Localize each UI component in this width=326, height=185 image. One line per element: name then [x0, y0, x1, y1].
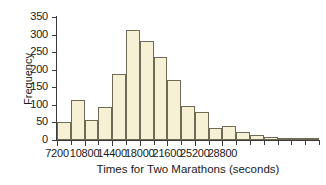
- histogram-bar: [209, 128, 223, 140]
- histogram-bar: [222, 126, 236, 140]
- y-axis-tick-label: 250: [30, 45, 48, 58]
- x-axis-tick-label: 10800: [70, 147, 100, 160]
- x-axis-tick-label: 21600: [153, 147, 183, 160]
- histogram-bar: [305, 138, 319, 140]
- x-axis-tick-label: 28800: [208, 147, 238, 160]
- x-axis-tick: [85, 141, 86, 146]
- x-axis-tick: [250, 141, 251, 145]
- x-axis-tick: [167, 141, 168, 146]
- histogram-bar: [71, 100, 85, 140]
- x-axis-title: Times for Two Marathons (seconds): [56, 163, 320, 175]
- y-axis-tick-label: 200: [30, 63, 48, 76]
- x-axis-tick: [278, 141, 279, 145]
- y-axis-tick-label: 300: [30, 28, 48, 41]
- y-axis-tick-label: 350: [30, 10, 48, 23]
- histogram-bar: [57, 122, 71, 140]
- x-axis-tick: [126, 141, 127, 145]
- histogram-bar: [181, 106, 195, 140]
- x-axis-tick: [264, 141, 265, 145]
- x-axis-tick: [195, 141, 196, 146]
- y-axis-title: Frequency: [22, 53, 34, 105]
- y-axis-tick: 250: [52, 52, 57, 53]
- y-axis-tick-label: 100: [30, 98, 48, 111]
- histogram-bar: [250, 135, 264, 140]
- x-axis-tick: [222, 141, 223, 146]
- x-axis-tick: [71, 141, 72, 145]
- y-axis-tick: 350: [52, 17, 57, 18]
- x-axis-ticks: 7200108001440018000216002520028800: [57, 141, 319, 161]
- y-axis-title-container: Frequency: [0, 17, 16, 140]
- y-axis-tick: 200: [52, 70, 57, 71]
- y-axis-tick: 150: [52, 87, 57, 88]
- y-axis-tick-label: 50: [36, 115, 48, 128]
- x-axis-tick: [98, 141, 99, 145]
- y-axis-tick: 100: [52, 105, 57, 106]
- y-axis-tick: 300: [52, 35, 57, 36]
- histogram-bar: [195, 112, 209, 140]
- x-axis-tick-label: 14400: [97, 147, 127, 160]
- x-axis-tick: [236, 141, 237, 145]
- histogram-bar: [264, 137, 278, 140]
- x-axis-tick: [305, 141, 306, 145]
- histogram-bar: [167, 80, 181, 140]
- plot-area: 050100150200250300350: [57, 17, 319, 140]
- x-axis-tick: [181, 141, 182, 145]
- histogram-bar: [112, 74, 126, 140]
- histogram-bar: [85, 120, 99, 140]
- histogram-bar: [236, 132, 250, 140]
- histogram-bar: [154, 57, 168, 140]
- x-axis-tick: [112, 141, 113, 146]
- x-axis-tick-label: 25200: [180, 147, 210, 160]
- histogram-bar: [98, 107, 112, 140]
- x-axis-tick: [140, 141, 141, 146]
- histogram-bar: [140, 41, 154, 140]
- x-axis-tick: [319, 141, 320, 145]
- x-axis-tick: [57, 141, 58, 146]
- y-axis-tick-label: 0: [42, 133, 48, 146]
- x-axis-tick: [209, 141, 210, 145]
- x-axis-tick: [291, 141, 292, 145]
- histogram-chart: Frequency 050100150200250300350 72001080…: [0, 0, 326, 185]
- x-axis-tick-label: 18000: [125, 147, 155, 160]
- y-axis-tick-label: 150: [30, 80, 48, 93]
- histogram-bar: [291, 138, 305, 140]
- histogram-bar: [126, 30, 140, 140]
- histogram-bar: [278, 138, 292, 140]
- x-axis-tick: [154, 141, 155, 145]
- x-axis-tick-label: 7200: [45, 147, 69, 160]
